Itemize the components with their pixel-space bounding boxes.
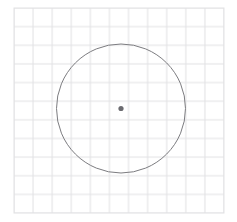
circle-grid-figure: [0, 0, 237, 222]
circle-center-point: [118, 106, 123, 111]
figure-canvas: [0, 0, 237, 222]
square-grid: [14, 8, 224, 213]
